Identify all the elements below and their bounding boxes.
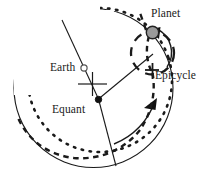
- equant-marker-icon: [95, 96, 101, 102]
- radius-line-lower: [99, 99, 117, 166]
- dotted-path-mask-2: [14, 10, 115, 95]
- planet-marker-icon: [146, 26, 158, 38]
- equant-epicycle-diagram: Planet Epicycle Earth Equant: [0, 0, 219, 175]
- planet-path-lower-dashed: [140, 73, 154, 130]
- planet-path-bottom-dashed: [18, 118, 140, 158]
- center-crosshair-icon: [78, 72, 107, 96]
- diagram-canvas: [0, 0, 219, 175]
- equant-label: Equant: [52, 104, 85, 116]
- equant-to-epicycle-line: [99, 54, 154, 99]
- earth-marker-icon: [81, 65, 87, 71]
- planet-label: Planet: [151, 8, 180, 20]
- epicycle-label: Epicycle: [155, 70, 196, 82]
- earth-label: Earth: [50, 62, 75, 74]
